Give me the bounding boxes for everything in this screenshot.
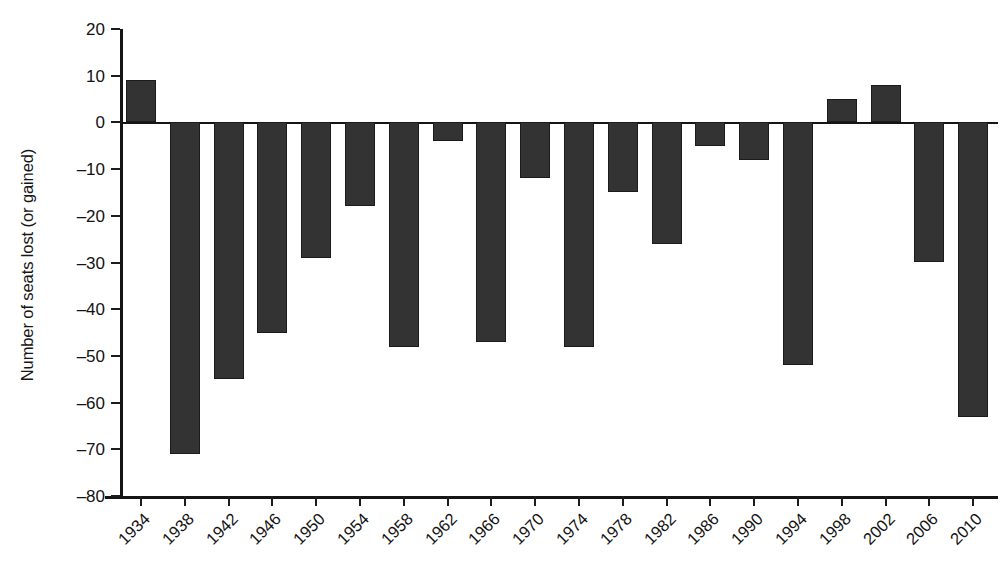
y-tick-label: –40	[49, 301, 105, 318]
y-tick-mark	[111, 75, 120, 77]
x-tick-mark	[228, 496, 230, 506]
bar	[257, 122, 287, 332]
x-tick-mark	[972, 496, 974, 506]
bar	[564, 122, 594, 346]
y-tick-label: 0	[49, 114, 105, 131]
y-tick-label: –60	[49, 395, 105, 412]
y-tick-mark	[111, 402, 120, 404]
bar	[608, 122, 638, 192]
bar	[301, 122, 331, 257]
x-tick-mark	[578, 496, 580, 506]
bar	[389, 122, 419, 346]
x-tick-mark	[184, 496, 186, 506]
y-tick-mark	[111, 308, 120, 310]
x-tick-mark	[928, 496, 930, 506]
y-tick-mark	[111, 495, 120, 497]
bar	[695, 122, 725, 145]
bar	[520, 122, 550, 178]
y-tick-label: 20	[49, 21, 105, 38]
x-tick-mark	[271, 496, 273, 506]
y-tick-mark	[111, 121, 120, 123]
x-tick-mark	[885, 496, 887, 506]
bar	[958, 122, 988, 416]
y-tick-mark	[111, 28, 120, 30]
y-tick-mark	[111, 215, 120, 217]
y-tick-label: 10	[49, 68, 105, 85]
bar-chart: Number of seats lost (or gained) 20100–1…	[0, 0, 1006, 580]
bar	[739, 122, 769, 159]
x-tick-mark	[622, 496, 624, 506]
bar	[652, 122, 682, 243]
bar	[126, 80, 156, 122]
bar	[827, 99, 857, 122]
x-tick-mark	[359, 496, 361, 506]
x-tick-mark	[753, 496, 755, 506]
y-tick-mark	[111, 262, 120, 264]
bar	[170, 122, 200, 454]
y-tick-label: –10	[49, 161, 105, 178]
y-tick-label: –70	[49, 441, 105, 458]
y-tick-label: –80	[49, 488, 105, 505]
bar	[914, 122, 944, 262]
plot-area	[0, 0, 1006, 580]
x-tick-mark	[140, 496, 142, 506]
y-tick-label: –50	[49, 348, 105, 365]
bar	[214, 122, 244, 379]
x-tick-mark	[490, 496, 492, 506]
y-tick-mark	[111, 168, 120, 170]
y-tick-mark	[111, 448, 120, 450]
y-tick-label: –20	[49, 208, 105, 225]
bar	[476, 122, 506, 341]
x-tick-mark	[447, 496, 449, 506]
x-tick-mark	[841, 496, 843, 506]
x-tick-mark	[403, 496, 405, 506]
x-tick-mark	[709, 496, 711, 506]
bar	[433, 122, 463, 141]
y-tick-mark	[111, 355, 120, 357]
x-tick-mark	[534, 496, 536, 506]
x-tick-mark	[315, 496, 317, 506]
bar	[783, 122, 813, 365]
x-tick-mark	[666, 496, 668, 506]
bar	[871, 85, 901, 122]
x-tick-mark	[797, 496, 799, 506]
bar	[345, 122, 375, 206]
y-tick-label: –30	[49, 255, 105, 272]
